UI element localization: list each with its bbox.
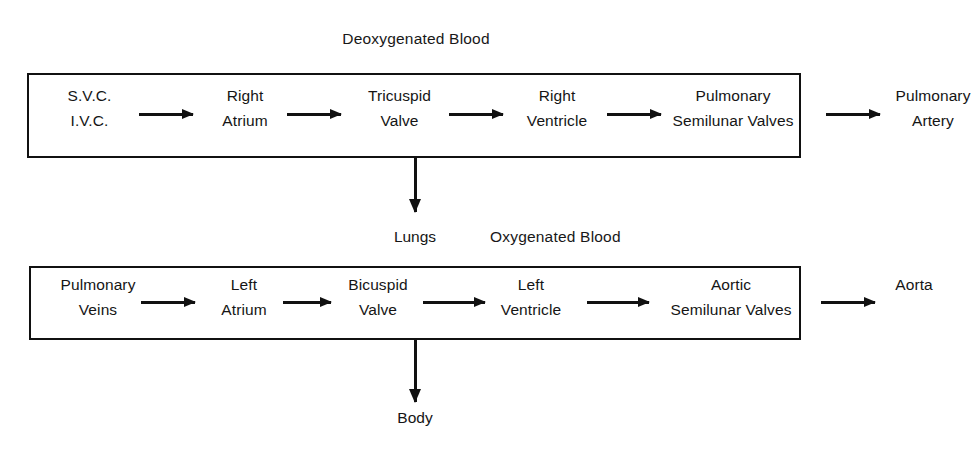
node-right-atrium-line2: Atrium <box>189 108 301 133</box>
node-bicuspid-valve-line2: Valve <box>319 297 437 322</box>
node-tricuspid-valve: Tricuspid Valve <box>337 83 462 133</box>
node-svc-ivc-line2: I.V.C. <box>32 108 147 133</box>
node-bicuspid-valve-line1: Bicuspid <box>319 272 437 297</box>
node-right-ventricle-line2: Ventricle <box>495 108 619 133</box>
deoxygenated-blood-title: Deoxygenated Blood <box>0 30 832 48</box>
node-pulmonary-artery-line2: Artery <box>869 108 975 133</box>
node-pulmonary-semilunar-valves: Pulmonary Semilunar Valves <box>633 83 833 133</box>
node-svc-ivc: S.V.C. I.V.C. <box>32 83 147 133</box>
oxygenated-pathway-box: Pulmonary Veins Left Atrium Bicuspid Val… <box>29 266 801 340</box>
node-aortic-semilunar-valves-line1: Aortic <box>631 272 831 297</box>
node-aortic-semilunar-valves: Aortic Semilunar Valves <box>631 272 831 322</box>
node-aortic-semilunar-valves-line2: Semilunar Valves <box>631 297 831 322</box>
node-aorta: Aorta <box>869 272 959 297</box>
node-aorta-line2: Aorta <box>869 272 959 297</box>
arrow-svc-to-right-atrium <box>139 113 193 116</box>
node-pulmonary-semilunar-valves-line1: Pulmonary <box>633 83 833 108</box>
node-tricuspid-valve-line1: Tricuspid <box>337 83 462 108</box>
arrow-to-body <box>414 340 417 402</box>
node-left-ventricle-line2: Ventricle <box>471 297 591 322</box>
node-left-ventricle-line1: Left <box>471 272 591 297</box>
label-body: Body <box>355 409 475 427</box>
arrow-right-atrium-to-tricuspid-valve <box>287 113 341 116</box>
node-svc-ivc-line1: S.V.C. <box>32 83 147 108</box>
oxygenated-blood-title: Oxygenated Blood <box>490 228 621 246</box>
node-pulmonary-artery: Pulmonary Artery <box>869 83 975 133</box>
node-right-ventricle: Right Ventricle <box>495 83 619 133</box>
node-pulmonary-artery-line1: Pulmonary <box>869 83 975 108</box>
label-lungs: Lungs <box>355 228 475 246</box>
node-right-ventricle-line1: Right <box>495 83 619 108</box>
node-right-atrium: Right Atrium <box>189 83 301 133</box>
node-pulmonary-semilunar-valves-line2: Semilunar Valves <box>633 108 833 133</box>
node-bicuspid-valve: Bicuspid Valve <box>319 272 437 322</box>
node-tricuspid-valve-line2: Valve <box>337 108 462 133</box>
node-left-atrium: Left Atrium <box>189 272 299 322</box>
deoxygenated-pathway-box: S.V.C. I.V.C. Right Atrium Tricuspid Val… <box>27 73 801 158</box>
arrow-pulmonary-veins-to-left-atrium <box>141 301 195 304</box>
arrow-aortic-semilunar-valves-to-aorta <box>821 301 875 304</box>
node-left-ventricle: Left Ventricle <box>471 272 591 322</box>
node-pulmonary-veins-line1: Pulmonary <box>33 272 163 297</box>
node-left-atrium-line1: Left <box>189 272 299 297</box>
node-right-atrium-line1: Right <box>189 83 301 108</box>
arrow-to-lungs <box>414 158 417 212</box>
node-pulmonary-veins: Pulmonary Veins <box>33 272 163 322</box>
